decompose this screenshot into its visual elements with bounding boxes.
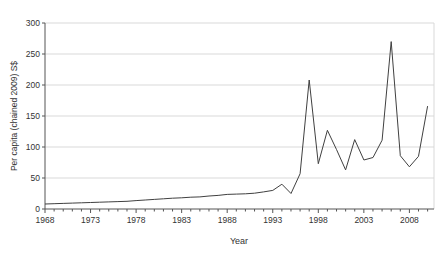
data-series-line [45,42,428,204]
y-tick-label: 300 [26,18,40,28]
line-chart: 0501001502002503001968197319781983198819… [0,0,444,256]
y-tick-label: 200 [26,80,40,90]
x-tick-label: 2003 [354,215,373,225]
y-axis-title: Per capita (chained 2009) S$ [9,61,19,171]
x-tick-label: 1983 [172,215,191,225]
x-tick-label: 1978 [127,215,146,225]
y-tick-label: 150 [26,111,40,121]
x-tick-label: 2008 [400,215,419,225]
x-tick-label: 1988 [218,215,237,225]
y-tick-label: 50 [31,173,41,183]
y-tick-label: 100 [26,142,40,152]
y-tick-label: 0 [35,204,40,214]
x-tick-label: 1968 [36,215,55,225]
x-tick-label: 1973 [81,215,100,225]
x-tick-label: 1993 [263,215,282,225]
y-tick-label: 250 [26,49,40,59]
x-axis-title: Year [230,236,248,246]
chart-canvas: 0501001502002503001968197319781983198819… [0,0,444,256]
x-tick-label: 1998 [309,215,328,225]
